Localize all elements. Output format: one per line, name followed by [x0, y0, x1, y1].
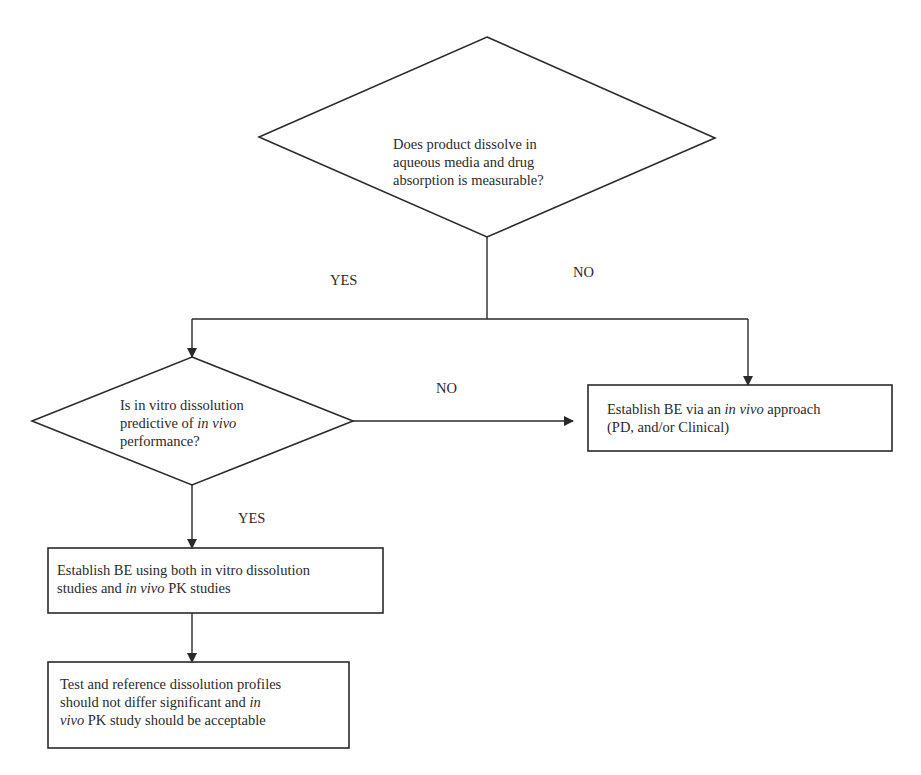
- text-line: performance?: [120, 432, 244, 450]
- process-text-in-vivo: Establish BE via an in vivo approach (PD…: [607, 400, 820, 436]
- text-line: vivo PK study should be acceptable: [60, 711, 281, 729]
- text-span-italic: vivo: [60, 712, 84, 728]
- text-line: (PD, and/or Clinical): [607, 418, 820, 436]
- text-span: PK studies: [165, 580, 231, 596]
- edge-label-q1-no: NO: [573, 264, 594, 281]
- text-line: aqueous media and drug: [393, 153, 544, 171]
- text-span-italic: in vivo: [197, 415, 236, 431]
- process-text-profiles: Test and reference dissolution profiles …: [60, 675, 281, 729]
- text-line: should not differ significant and in: [60, 693, 281, 711]
- text-span-italic: in vivo: [725, 401, 764, 417]
- edge-label-q1-yes: YES: [330, 272, 357, 289]
- text-line: Does product dissolve in: [393, 135, 544, 153]
- text-line: Test and reference dissolution profiles: [60, 675, 281, 693]
- text-span: should not differ significant and: [60, 694, 249, 710]
- text-span: studies and: [57, 580, 125, 596]
- edge-label-q2-no: NO: [436, 380, 457, 397]
- text-span: approach: [764, 401, 821, 417]
- text-span: Establish BE via an: [607, 401, 725, 417]
- edge-label-q2-yes: YES: [238, 510, 265, 527]
- decision-text-predictive: Is in vitro dissolution predictive of in…: [120, 396, 244, 450]
- text-span-italic: in: [249, 694, 260, 710]
- text-line: studies and in vivo PK studies: [57, 579, 310, 597]
- text-span: predictive of: [120, 415, 197, 431]
- text-line: Establish BE via an in vivo approach: [607, 400, 820, 418]
- process-text-both: Establish BE using both in vitro dissolu…: [57, 561, 310, 597]
- flowchart-connectors: [0, 0, 921, 775]
- text-line: Establish BE using both in vitro dissolu…: [57, 561, 310, 579]
- text-span: PK study should be acceptable: [84, 712, 266, 728]
- text-line: predictive of in vivo: [120, 414, 244, 432]
- decision-text-dissolve: Does product dissolve in aqueous media a…: [393, 135, 544, 189]
- text-line: Is in vitro dissolution: [120, 396, 244, 414]
- text-span-italic: in vivo: [125, 580, 164, 596]
- text-line: absorption is measurable?: [393, 171, 544, 189]
